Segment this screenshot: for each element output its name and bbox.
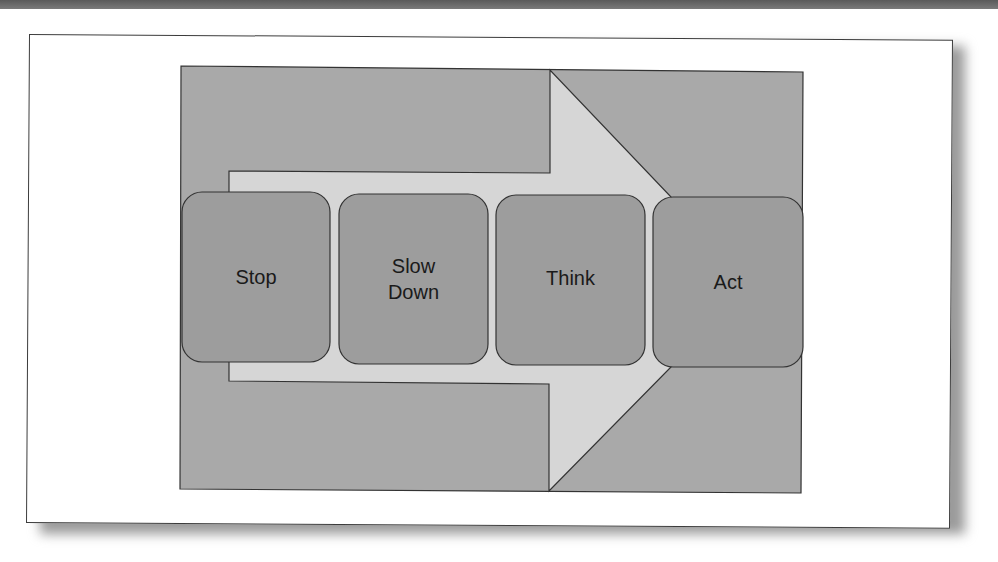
step-text: Think [546, 265, 595, 291]
step-label-slow-down: Slow Down [339, 194, 488, 364]
step-text: Stop [235, 264, 276, 290]
step-label-stop: Stop [182, 192, 330, 362]
step-text: Slow Down [388, 253, 439, 305]
step-text: Act [714, 269, 743, 295]
step-label-act: Act [653, 197, 803, 367]
step-label-think: Think [496, 193, 645, 363]
